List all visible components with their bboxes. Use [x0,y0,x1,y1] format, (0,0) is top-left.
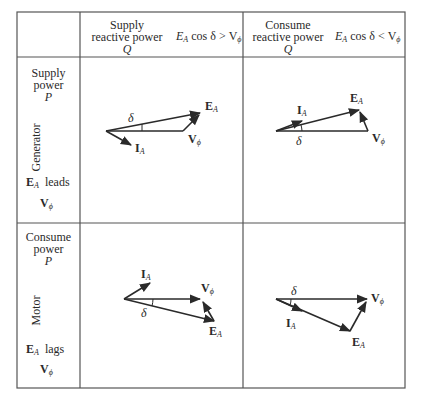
header-col1-condition: EA cos δ > Vϕ [176,30,241,46]
e-a-vector [276,110,359,131]
phasor-diagram-generator-supply-q [106,113,200,145]
relation-v: V [40,362,49,376]
delta-arc [152,299,153,306]
row1-mode: Generator [29,116,44,180]
a-sub: A [213,105,218,114]
relation-word: lags [45,342,64,356]
a-sub: A [291,322,296,331]
row1-p: P [17,91,80,103]
v-letter: V [372,131,381,145]
relation-e: E [26,342,34,356]
label-v-phi: Vϕ [201,282,214,298]
e-letter: E [352,335,360,349]
e-letter: E [209,324,217,338]
condition-v-sub: ϕ [396,35,400,44]
e-letter: E [350,91,358,105]
label-i-a: IA [135,142,145,158]
v-letter: V [201,281,210,295]
v-letter: V [188,132,197,146]
row2-relation: EA lags [26,343,64,359]
a-sub: A [360,341,365,350]
relation-v: V [40,196,49,210]
label-i-a: IA [141,268,151,284]
phi-sub: ϕ [381,137,385,146]
label-delta: δ [291,285,297,297]
row2-power-label: Consume power P [17,231,80,267]
header-col1-label: Supply reactive power Q [82,19,172,55]
label-e-a: EA [205,100,218,116]
row2-mode: Motor [29,279,44,343]
label-v-phi: Vϕ [188,133,201,149]
a-sub: A [358,97,363,106]
jxs-ia-vector [350,302,366,331]
label-delta: δ [141,307,147,319]
i-a-vector [106,131,131,145]
header-col2-q: Q [246,43,330,55]
label-delta: δ [296,135,302,147]
a-sub: A [140,147,145,156]
label-e-a: EA [350,92,363,108]
label-v-phi: Vϕ [372,132,385,148]
row1-relation: EA leads [26,176,70,192]
label-e-a: EA [209,325,222,341]
row1-power-label: Supply power P [17,67,80,103]
label-i-a: IA [297,104,307,120]
v-letter: V [371,291,380,305]
relation-e: E [26,175,34,189]
condition-rest: cos δ < V [347,29,396,43]
i-a-vector [276,299,302,311]
a-sub: A [146,273,151,282]
phasor-diagram-generator-consume-q [276,110,368,131]
e-a-vector [124,299,214,321]
i-a-vector [124,283,150,299]
relation-e-sub: A [34,348,39,357]
delta-arc [301,125,302,131]
relation-e-sub: A [34,181,39,190]
row1-relation-v: Vϕ [40,197,53,213]
relation-word: leads [45,175,70,189]
phi-sub: ϕ [380,297,384,306]
relation-v-sub: ϕ [49,368,53,377]
label-i-a: IA [286,317,296,333]
e-letter: E [205,99,213,113]
row2-p: P [17,255,80,267]
condition-rest: cos δ > V [188,29,237,43]
header-col1-q: Q [82,43,172,55]
jxs-ia-vector [360,112,368,131]
phi-sub: ϕ [197,138,201,147]
relation-v-sub: ϕ [49,202,53,211]
label-e-a: EA [352,336,365,352]
row2-relation-v: Vϕ [40,363,53,379]
condition-v-sub: ϕ [237,35,241,44]
header-col2-label: Consume reactive power Q [246,19,330,55]
a-sub: A [217,330,222,339]
label-v-phi: Vϕ [371,292,384,308]
phi-sub: ϕ [210,287,214,296]
label-delta: δ [128,112,134,124]
a-sub: A [302,109,307,118]
delta-arc [290,299,291,305]
jxs-ia-vector [183,115,199,131]
header-col2-condition: EA cos δ < Vϕ [335,30,400,46]
